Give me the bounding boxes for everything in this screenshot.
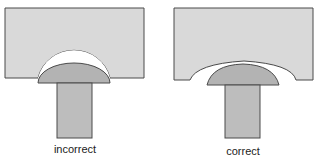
correct-rivet-shank — [225, 85, 260, 138]
incorrect-rivet-shank — [57, 83, 92, 138]
incorrect-caption: incorrect — [25, 143, 125, 155]
correct-rivet-head — [207, 64, 279, 85]
diagram-canvas — [0, 0, 319, 162]
incorrect-diagram — [5, 8, 144, 138]
correct-caption: correct — [193, 145, 293, 157]
correct-diagram — [174, 8, 313, 138]
